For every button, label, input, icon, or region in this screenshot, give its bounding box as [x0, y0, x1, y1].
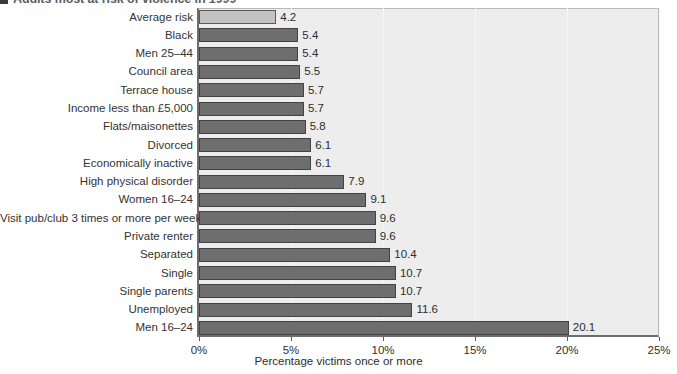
- bar: [199, 10, 276, 24]
- bar: [199, 47, 298, 61]
- figure-caption-text: Adults most at risk of violence in 1999: [13, 0, 236, 6]
- bar-value-label: 6.1: [315, 139, 331, 152]
- chart-page: Adults most at risk of violence in 1999 …: [0, 0, 677, 374]
- bar-value-label: 10.7: [400, 285, 422, 298]
- bar: [199, 102, 304, 116]
- bar: [199, 28, 298, 42]
- x-tick-mark: [659, 337, 660, 341]
- bar: [199, 321, 569, 335]
- bar: [199, 211, 376, 225]
- category-label: Council area: [0, 65, 193, 78]
- bar: [199, 284, 396, 298]
- bar-value-label: 6.1: [315, 157, 331, 170]
- bar: [199, 65, 300, 79]
- bar-value-label: 9.1: [370, 193, 386, 206]
- category-label: Divorced: [0, 139, 193, 152]
- x-tick-mark: [383, 337, 384, 341]
- gridline: [659, 8, 660, 335]
- bar-value-label: 5.5: [304, 65, 320, 78]
- category-label: Terrace house: [0, 84, 193, 97]
- bar-value-label: 5.4: [302, 29, 318, 42]
- bar-value-label: 5.4: [302, 47, 318, 60]
- bar-value-label: 7.9: [348, 175, 364, 188]
- category-label: Men 25–44: [0, 47, 193, 60]
- bar-value-label: 10.7: [400, 267, 422, 280]
- x-tick-mark: [567, 337, 568, 341]
- x-tick-mark: [199, 337, 200, 341]
- figure-caption: Adults most at risk of violence in 1999: [0, 0, 340, 6]
- bar: [199, 193, 366, 207]
- category-label: Black: [0, 29, 193, 42]
- bar: [199, 156, 311, 170]
- bar-value-label: 20.1: [573, 321, 595, 334]
- bar: [199, 138, 311, 152]
- bars-layer: 4.25.45.45.55.75.75.86.16.17.99.19.69.61…: [199, 8, 659, 337]
- bar: [199, 83, 304, 97]
- category-label: Average risk: [0, 11, 193, 24]
- x-tick-mark: [291, 337, 292, 341]
- category-label: Visit pub/club 3 times or more per week: [0, 212, 193, 225]
- bar-value-label: 5.7: [308, 84, 324, 97]
- bar-value-label: 10.4: [394, 248, 416, 261]
- bar: [199, 266, 396, 280]
- bar: [199, 175, 344, 189]
- bar-value-label: 4.2: [280, 11, 296, 24]
- bar-value-label: 9.6: [380, 212, 396, 225]
- category-label: High physical disorder: [0, 175, 193, 188]
- bar: [199, 229, 376, 243]
- bar-value-label: 11.6: [416, 303, 438, 316]
- category-label: Separated: [0, 248, 193, 261]
- bar: [199, 303, 412, 317]
- bar: [199, 120, 306, 134]
- category-label: Single parents: [0, 285, 193, 298]
- x-tick-mark: [475, 337, 476, 341]
- bar-value-label: 9.6: [380, 230, 396, 243]
- category-label: Men 16–24: [0, 321, 193, 334]
- category-label: Unemployed: [0, 303, 193, 316]
- category-label: Single: [0, 267, 193, 280]
- category-label: Women 16–24: [0, 193, 193, 206]
- bar-value-label: 5.7: [308, 102, 324, 115]
- bar: [199, 248, 390, 262]
- category-label: Income less than £5,000: [0, 102, 193, 115]
- category-label: Flats/maisonettes: [0, 120, 193, 133]
- category-label: Private renter: [0, 230, 193, 243]
- category-label: Economically inactive: [0, 157, 193, 170]
- x-axis-title: Percentage victims once or more: [0, 355, 677, 367]
- bar-value-label: 5.8: [310, 120, 326, 133]
- square-bullet-icon: [0, 0, 8, 4]
- category-axis-labels: Average riskBlackMen 25–44Council areaTe…: [0, 8, 193, 337]
